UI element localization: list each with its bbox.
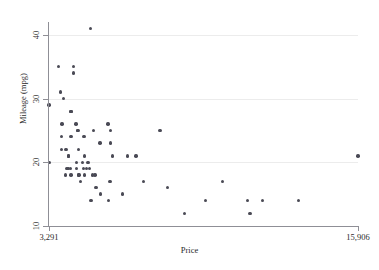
data-point xyxy=(166,186,169,189)
data-point xyxy=(98,141,101,144)
y-axis-tick xyxy=(43,162,48,163)
gridline xyxy=(49,162,358,163)
data-point xyxy=(108,180,111,183)
data-point xyxy=(82,135,85,138)
data-point xyxy=(69,135,72,138)
data-point xyxy=(204,199,207,202)
data-point xyxy=(297,199,300,202)
data-point xyxy=(109,141,112,144)
data-point xyxy=(57,65,60,68)
data-point xyxy=(107,199,110,202)
data-point xyxy=(106,122,109,125)
data-point xyxy=(59,90,62,93)
data-point xyxy=(79,180,82,183)
y-axis-title: Mileage (mpg) xyxy=(18,73,28,124)
data-point xyxy=(67,154,70,157)
x-axis-tick-label: 3,291 xyxy=(39,232,58,242)
y-axis-line xyxy=(48,22,49,226)
data-point xyxy=(109,129,112,132)
data-point xyxy=(121,192,124,195)
data-point xyxy=(75,167,78,170)
y-axis-tick-label: 10 xyxy=(30,226,42,227)
gridline xyxy=(49,35,358,36)
data-point xyxy=(69,167,72,170)
data-point xyxy=(60,122,63,125)
y-axis-tick-label: 30 xyxy=(30,99,42,100)
data-point xyxy=(248,212,251,215)
data-point xyxy=(69,173,72,176)
data-point xyxy=(93,173,96,176)
data-point xyxy=(246,199,249,202)
data-point xyxy=(83,173,86,176)
data-point xyxy=(126,154,129,157)
x-axis-title: Price xyxy=(0,245,379,255)
x-axis-tick-label: 15,906 xyxy=(346,232,369,242)
data-point xyxy=(92,129,95,132)
data-point xyxy=(99,192,102,195)
plot-area xyxy=(49,22,358,226)
data-point xyxy=(356,154,359,157)
y-axis-tick xyxy=(43,226,48,227)
data-point xyxy=(74,122,77,125)
gridline xyxy=(49,99,358,100)
data-point xyxy=(158,129,161,132)
data-point xyxy=(77,173,80,176)
data-point xyxy=(64,148,67,151)
y-axis-tick xyxy=(43,35,48,36)
y-axis-tick xyxy=(43,99,48,100)
data-point xyxy=(62,97,65,100)
data-point xyxy=(142,180,145,183)
data-point xyxy=(81,161,84,164)
x-axis-tick xyxy=(358,227,359,231)
y-axis-tick-label: 40 xyxy=(30,35,42,36)
data-point xyxy=(60,148,63,151)
data-point xyxy=(183,212,186,215)
data-point xyxy=(64,173,67,176)
data-point xyxy=(89,199,92,202)
data-point xyxy=(76,129,79,132)
scatter-plot-screenshot: 102030403,29115,906 Mileage (mpg) Price xyxy=(0,0,379,270)
data-point xyxy=(134,154,137,157)
data-point xyxy=(88,167,91,170)
data-point xyxy=(77,148,80,151)
data-point xyxy=(83,154,86,157)
data-point xyxy=(72,71,75,74)
data-point xyxy=(86,161,89,164)
x-axis-tick xyxy=(49,227,50,231)
data-point xyxy=(89,27,92,30)
data-point xyxy=(75,161,78,164)
data-point xyxy=(111,154,114,157)
y-axis-tick-label: 20 xyxy=(30,162,42,163)
data-point xyxy=(60,135,63,138)
data-point xyxy=(69,110,72,113)
data-point xyxy=(72,65,75,68)
data-point xyxy=(221,180,224,183)
data-point xyxy=(261,199,264,202)
x-axis-line xyxy=(48,226,359,227)
data-point xyxy=(95,186,98,189)
